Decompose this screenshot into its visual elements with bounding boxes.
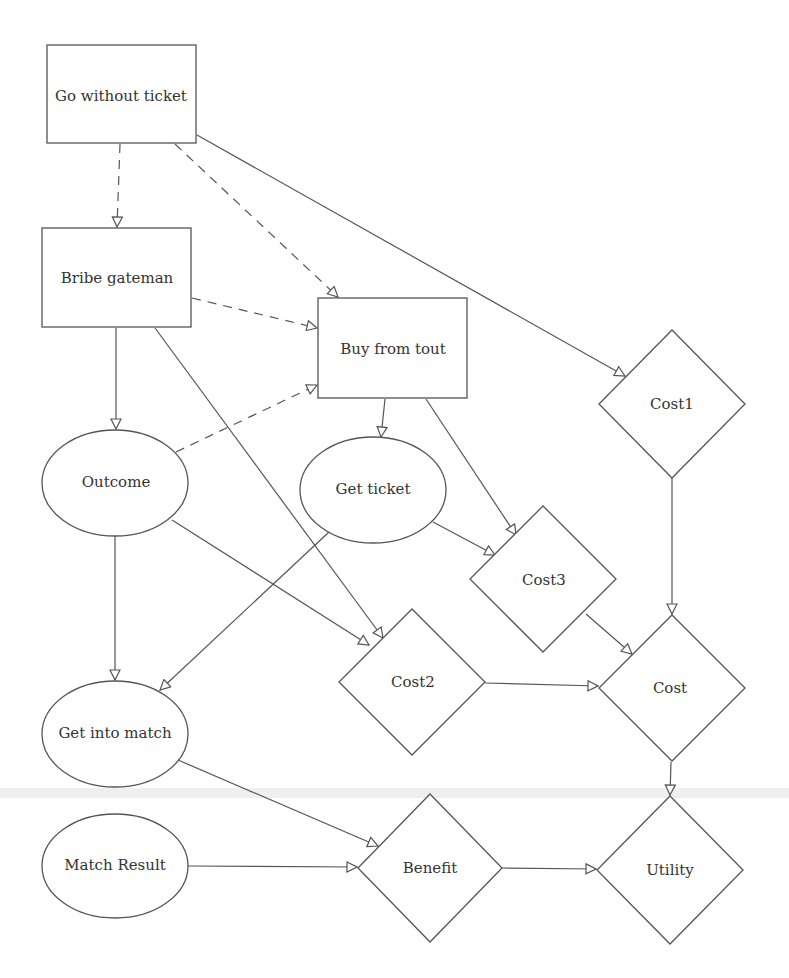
edge-get-ticket-to-get-into-match <box>160 532 329 690</box>
node-label: Utility <box>646 861 694 879</box>
node-match-result[interactable]: Match Result <box>42 814 188 918</box>
node-buy-from-tout[interactable]: Buy from tout <box>318 298 467 398</box>
node-cost[interactable]: Cost <box>599 615 745 761</box>
node-label: Get ticket <box>336 480 411 498</box>
edge-cost3-to-cost <box>586 614 632 654</box>
edge-bribe-to-tout <box>192 298 317 328</box>
node-get-ticket[interactable]: Get ticket <box>300 437 446 543</box>
node-label: Outcome <box>82 473 151 491</box>
influence-diagram: Go without ticket Bribe gateman Buy from… <box>0 0 789 978</box>
edge-outcome-to-tout <box>176 385 317 452</box>
node-label: Bribe gateman <box>61 269 174 287</box>
edge-outcome-to-cost2 <box>172 520 369 645</box>
node-label: Go without ticket <box>55 87 187 105</box>
node-label: Cost <box>653 679 687 697</box>
edge-cost2-to-cost <box>485 683 598 686</box>
node-label: Cost3 <box>522 571 566 589</box>
edge-get-into-match-to-benefit <box>178 760 378 846</box>
node-label: Cost2 <box>391 673 435 691</box>
node-outcome[interactable]: Outcome <box>42 430 188 536</box>
node-label: Benefit <box>403 859 457 877</box>
node-utility[interactable]: Utility <box>597 796 743 944</box>
node-cost2[interactable]: Cost2 <box>339 609 485 755</box>
node-cost3[interactable]: Cost3 <box>470 506 616 652</box>
edge-get-ticket-to-cost3 <box>433 522 495 555</box>
node-get-into-match[interactable]: Get into match <box>42 681 188 787</box>
edge-go-to-tout <box>175 144 338 297</box>
node-label: Buy from tout <box>340 340 445 358</box>
edge-tout-to-get-ticket <box>381 399 385 437</box>
node-label: Match Result <box>64 856 166 874</box>
node-label: Cost1 <box>650 395 694 413</box>
edge-benefit-to-utility <box>502 868 596 869</box>
node-cost1[interactable]: Cost1 <box>599 330 745 478</box>
node-go-without-ticket[interactable]: Go without ticket <box>47 45 196 143</box>
node-bribe-gateman[interactable]: Bribe gateman <box>42 228 191 327</box>
node-benefit[interactable]: Benefit <box>358 794 502 942</box>
node-label: Get into match <box>58 724 172 742</box>
edge-go-to-bribe <box>117 144 120 227</box>
edge-match-result-to-benefit <box>188 866 357 867</box>
